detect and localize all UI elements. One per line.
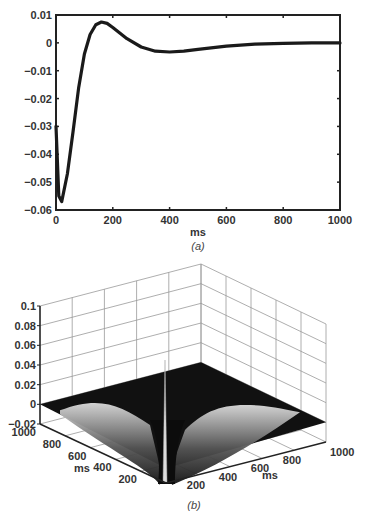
grid-line [40,323,201,365]
panel-a: 020040060080010000.010−0.01−0.02−0.03−0.… [24,9,352,252]
grid-line [201,264,326,324]
x-tick-label: 1000 [328,214,352,226]
y-tick-label: −0.03 [24,120,52,132]
x-tick-label: 800 [274,214,292,226]
z-tick-label: 0 [30,398,36,410]
grid-line [201,303,326,363]
x-axis-label: ms [190,226,206,238]
y-tick-label: −0.04 [24,148,53,160]
x-axis-label: ms [262,469,278,481]
panel-b: 0.10.080.060.040.020−0.02200400600800100… [8,264,354,511]
y-tick-label: 0.01 [31,9,52,21]
z-tick-label: 0.1 [21,300,36,312]
y-axis-label: ms [74,462,90,474]
y-tick-label: 0 [46,37,52,49]
figure: 020040060080010000.010−0.01−0.02−0.03−0.… [0,0,372,525]
y-tick-label: −0.02 [24,93,52,105]
grid-line [40,284,201,326]
grid-line [40,264,201,306]
x-tick-label: 1000 [330,446,354,458]
z-tick-label: 0.02 [15,379,36,391]
z-tick-label: 0.04 [15,359,37,371]
y-tick-label: 400 [93,461,111,473]
x-tick-label: 200 [187,479,205,491]
grid-line [201,284,326,344]
data-line [56,22,340,202]
y-tick-label: 800 [43,438,61,450]
grid-line [40,303,201,345]
z-tick-label: 0.08 [15,320,36,332]
x-tick-label: 400 [160,214,178,226]
y-tick-label: −0.06 [24,204,52,216]
x-tick-label: 0 [53,214,59,226]
y-tick-label: −0.05 [24,176,52,188]
caption-a: (a) [191,240,205,252]
x-tick-label: 600 [217,214,235,226]
y-tick-label: 1000 [12,426,36,438]
y-tick-label: −0.01 [24,65,52,77]
y-tick-label: 200 [118,473,136,485]
x-tick-label: 400 [219,471,237,483]
y-tick-label: 600 [68,450,86,462]
x-tick-label: 800 [283,454,301,466]
caption-b: (b) [187,499,201,511]
x-tick-label: 200 [104,214,122,226]
z-tick-label: 0.06 [15,339,36,351]
